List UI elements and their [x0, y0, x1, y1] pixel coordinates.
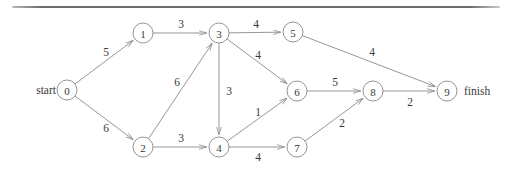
node-label: 4	[216, 142, 222, 154]
graph-node-5[interactable]: 5	[283, 22, 303, 42]
edge-weight-label: 4	[255, 151, 261, 163]
edge-weight-label: 2	[339, 117, 345, 129]
edge-weight-label: 4	[253, 18, 259, 30]
start-label: start	[36, 84, 57, 96]
edge-weight-label: 3	[178, 18, 184, 30]
top-horizontal-rule	[12, 6, 500, 8]
graph-node-6[interactable]: 6	[287, 81, 307, 101]
node-label: 6	[294, 86, 300, 98]
graph-edge	[229, 32, 281, 33]
graph-node-4[interactable]: 4	[209, 137, 229, 157]
edge-weight-label: 3	[226, 85, 232, 97]
graph-node-0[interactable]: 0	[57, 80, 77, 100]
node-label: 1	[140, 28, 146, 40]
edge-weight-label: 1	[255, 106, 261, 118]
graph-edge	[149, 43, 213, 138]
node-label: 5	[290, 27, 296, 39]
graph-canvas: 56363443144522 0123456789 start finish	[0, 0, 517, 182]
node-label: 9	[444, 86, 450, 98]
node-label: 8	[370, 86, 376, 98]
node-layer: 0123456789	[57, 22, 457, 157]
graph-node-7[interactable]: 7	[287, 137, 307, 157]
graph-node-8[interactable]: 8	[363, 81, 383, 101]
node-label: 0	[64, 85, 70, 97]
graph-edge	[302, 36, 435, 87]
edge-weight-label: 2	[407, 96, 413, 108]
graph-edge	[227, 98, 287, 141]
edge-weight-label: 4	[255, 49, 261, 61]
graph-node-2[interactable]: 2	[133, 137, 153, 157]
node-label: 2	[140, 142, 146, 154]
edge-weight-label: 5	[332, 76, 338, 88]
edge-weight-label: 6	[174, 76, 180, 88]
graph-node-9[interactable]: 9	[437, 81, 457, 101]
finish-label: finish	[464, 85, 490, 97]
graph-node-1[interactable]: 1	[133, 23, 153, 43]
node-label: 3	[216, 28, 222, 40]
graph-edge	[305, 98, 363, 141]
node-label: 7	[294, 142, 300, 154]
edge-weight-label: 4	[369, 46, 375, 58]
graph-figure: 56363443144522 0123456789 start finish	[0, 0, 517, 182]
edge-weight-label: 6	[103, 122, 109, 134]
edge-weight-label: 3	[178, 132, 184, 144]
graph-edge	[227, 39, 287, 84]
edge-weight-label: 5	[103, 46, 109, 58]
graph-node-3[interactable]: 3	[209, 23, 229, 43]
